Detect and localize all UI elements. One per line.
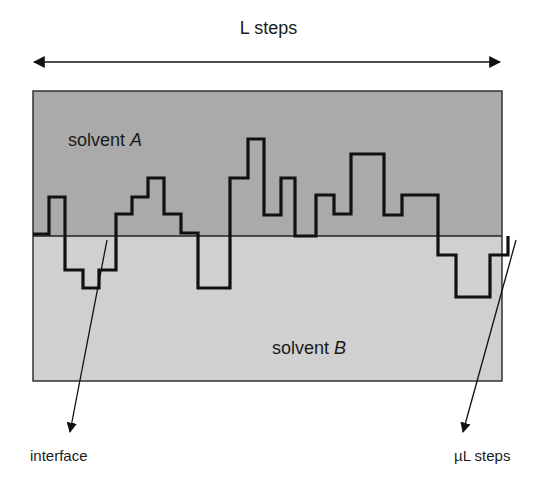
solvent-b-text: solvent: [272, 338, 329, 358]
diagram-canvas: [0, 0, 537, 488]
mu-l-steps-label: µL steps: [454, 447, 510, 464]
solvent-b-letter: B: [334, 338, 346, 358]
solvent-b-label: solvent B: [272, 338, 346, 359]
solvent-a-text: solvent: [68, 130, 125, 150]
length-label: L steps: [0, 18, 537, 39]
solvent-a-letter: A: [130, 130, 142, 150]
solvent-a-label: solvent A: [68, 130, 142, 151]
interface-label: interface: [30, 447, 88, 464]
